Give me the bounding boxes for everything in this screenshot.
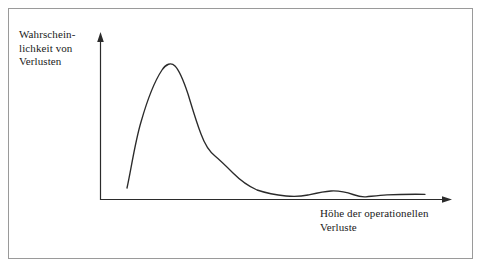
x-axis-label: Höhe der operationellen Verluste [320, 207, 465, 234]
y-axis-label: Wahrschein- lichkeit von Verlusten [19, 28, 95, 69]
y-axis-arrowhead [97, 32, 104, 42]
figure-root: Wahrschein- lichkeit von Verlusten Höhe … [0, 0, 483, 270]
loss-distribution-curve [127, 64, 425, 197]
x-axis-arrowhead [442, 196, 452, 203]
